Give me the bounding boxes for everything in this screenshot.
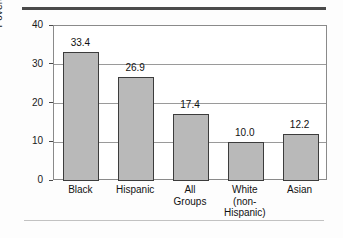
bar-value-label: 33.4 bbox=[50, 37, 110, 48]
chart-page: Poverty rate 01020304033.4Black26.9Hispa… bbox=[0, 0, 343, 238]
bar bbox=[228, 142, 264, 181]
y-tick-label: 40 bbox=[15, 19, 43, 30]
y-tick-label: 10 bbox=[15, 135, 43, 146]
bar-value-label: 17.4 bbox=[160, 99, 220, 110]
bar-value-label: 10.0 bbox=[215, 127, 275, 138]
bottom-divider-rule bbox=[24, 220, 324, 221]
y-tick-mark bbox=[49, 180, 53, 181]
y-tick-mark bbox=[49, 102, 53, 103]
y-axis-title: Poverty rate bbox=[0, 0, 4, 55]
bar-value-label: 12.2 bbox=[270, 119, 330, 130]
x-category-label: Asian bbox=[268, 184, 332, 196]
bar bbox=[118, 77, 154, 181]
bar-value-label: 26.9 bbox=[105, 62, 165, 73]
y-tick-mark bbox=[49, 25, 53, 26]
y-tick-mark bbox=[49, 141, 53, 142]
y-tick-mark bbox=[49, 63, 53, 64]
bar bbox=[63, 52, 99, 181]
top-divider-rule bbox=[22, 7, 326, 10]
bar bbox=[283, 134, 319, 181]
y-tick-label: 20 bbox=[15, 97, 43, 108]
y-tick-label: 30 bbox=[15, 58, 43, 69]
y-tick-label: 0 bbox=[15, 174, 43, 185]
bar bbox=[173, 114, 209, 181]
